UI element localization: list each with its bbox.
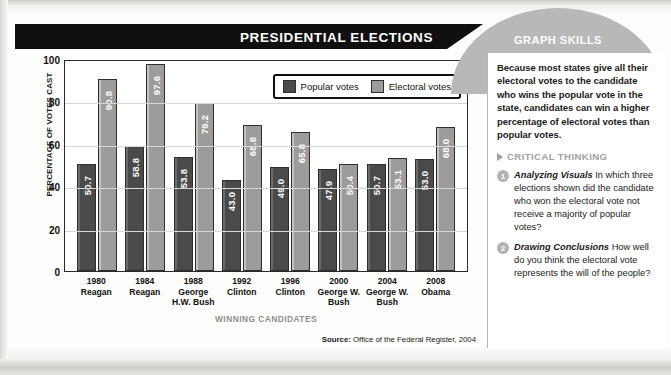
source-text: Office of the Federal Register, 2004 xyxy=(351,335,476,344)
legend-item: Electoral votes xyxy=(371,80,451,93)
x-axis-year: 2004 xyxy=(363,276,412,287)
bar-group: 58.897.6 xyxy=(121,61,169,271)
bar-value-label: 68.0 xyxy=(440,139,451,158)
x-axis-candidate: George H.W. Bush xyxy=(172,287,215,308)
x-axis-year: 1996 xyxy=(266,276,315,287)
x-axis-label: 2004George W. Bush xyxy=(363,276,412,308)
bar-value-label: 53.1 xyxy=(392,170,403,189)
electoral-votes-bar: 79.2 xyxy=(195,103,214,271)
bar-value-label: 53.8 xyxy=(178,169,189,188)
electoral-votes-bar: 50.4 xyxy=(339,164,358,271)
page-edge-bottom xyxy=(0,359,671,375)
x-axis-candidate: George W. Bush xyxy=(318,287,361,308)
bar-value-label: 90.8 xyxy=(102,90,113,109)
x-axis-candidate: Obama xyxy=(421,287,450,297)
page-title: PRESIDENTIAL ELECTIONS xyxy=(240,29,433,44)
electoral-votes-bar: 68.0 xyxy=(436,127,455,271)
page-edge-left xyxy=(0,0,8,375)
electoral-votes-bar: 53.1 xyxy=(388,158,407,271)
sidebar-intro-text: Because most states give all their elect… xyxy=(497,61,655,141)
electoral-votes-bar: 68.8 xyxy=(243,125,262,271)
x-axis-year: 1992 xyxy=(218,276,267,287)
question-text: Analyzing Visuals In which three electio… xyxy=(514,169,655,234)
bar-value-label: 50.7 xyxy=(371,175,382,194)
bar-value-label: 58.8 xyxy=(129,158,140,177)
x-axis-label: 1980Reagan xyxy=(72,276,121,308)
x-axis-year: 1984 xyxy=(121,276,170,287)
x-axis-year: 2008 xyxy=(412,276,461,287)
grid-line xyxy=(65,146,467,147)
bar-value-label: 47.9 xyxy=(322,181,333,200)
chart: PERCENTAGE OF VOTES CAST 100806040200 50… xyxy=(14,52,480,352)
popular-votes-bar: 58.8 xyxy=(125,146,144,271)
y-tick-label: 20 xyxy=(34,224,60,235)
y-tick-label: 40 xyxy=(34,182,60,193)
legend-item: Popular votes xyxy=(283,80,359,93)
electoral-votes-bar: 90.8 xyxy=(98,79,117,271)
question-title: Analyzing Visuals xyxy=(514,170,593,180)
x-axis-candidate: George W. Bush xyxy=(366,287,409,308)
y-tick-label: 100 xyxy=(34,55,60,66)
question-item: 2Drawing Conclusions How well do you thi… xyxy=(497,241,655,280)
title-banner: PRESIDENTIAL ELECTIONS xyxy=(15,24,447,49)
popular-votes-bar: 47.9 xyxy=(318,169,337,271)
legend-swatch-icon xyxy=(283,80,296,93)
legend-swatch-icon xyxy=(371,80,384,93)
bar-group: 43.068.8 xyxy=(218,61,266,271)
triangle-right-icon xyxy=(497,153,503,161)
x-axis-labels: 1980Reagan1984Reagan1988George H.W. Bush… xyxy=(64,276,468,308)
sidebar-body: Because most states give all their elect… xyxy=(487,53,665,348)
question-text: Drawing Conclusions How well do you thin… xyxy=(514,241,655,280)
y-tick-label: 80 xyxy=(34,97,60,108)
x-axis-candidate: Clinton xyxy=(227,287,257,297)
x-axis-candidate: Reagan xyxy=(81,287,112,297)
popular-votes-bar: 50.7 xyxy=(367,164,386,271)
question-number-badge: 1 xyxy=(497,170,509,182)
bar-value-label: 53.0 xyxy=(419,170,430,189)
x-axis-label: 2008Obama xyxy=(412,276,461,308)
bar-value-label: 43.0 xyxy=(226,192,237,211)
y-axis-ticks: 100806040200 xyxy=(34,60,60,272)
grid-line xyxy=(65,103,467,104)
x-axis-year: 2000 xyxy=(315,276,364,287)
popular-votes-bar: 53.8 xyxy=(174,157,193,271)
legend-label: Electoral votes xyxy=(389,81,451,92)
popular-votes-bar: 43.0 xyxy=(222,180,241,271)
graph-skills-sidebar: GRAPH SKILLS Because most states give al… xyxy=(487,8,665,348)
critical-thinking-header: CRITICAL THINKING xyxy=(497,151,655,162)
page-edge-top xyxy=(0,0,671,6)
electoral-votes-bar: 97.6 xyxy=(146,64,165,271)
x-axis-label: 2000George W. Bush xyxy=(315,276,364,308)
question-number-badge: 2 xyxy=(497,242,509,254)
bar-value-label: 79.2 xyxy=(199,115,210,134)
critical-thinking-label: CRITICAL THINKING xyxy=(507,151,607,162)
x-axis-title: WINNING CANDIDATES xyxy=(64,314,468,324)
y-tick-label: 0 xyxy=(34,267,60,278)
bar-group: 53.879.2 xyxy=(170,61,218,271)
x-axis-label: 1996Clinton xyxy=(266,276,315,308)
bar-group: 50.790.8 xyxy=(73,61,121,271)
x-axis-label: 1988George H.W. Bush xyxy=(169,276,218,308)
x-axis-label: 1984Reagan xyxy=(121,276,170,308)
popular-votes-bar: 50.7 xyxy=(77,164,96,271)
y-tick-label: 60 xyxy=(34,139,60,150)
x-axis-candidate: Clinton xyxy=(275,287,305,297)
electoral-votes-bar: 65.8 xyxy=(291,132,310,271)
grid-line xyxy=(65,188,467,189)
grid-line xyxy=(65,231,467,232)
x-axis-year: 1988 xyxy=(169,276,218,287)
popular-votes-bar: 53.0 xyxy=(415,159,434,271)
question-item: 1Analyzing Visuals In which three electi… xyxy=(497,169,655,234)
bar-value-label: 97.6 xyxy=(150,76,161,95)
x-axis-candidate: Reagan xyxy=(129,287,160,297)
bar-value-label: 50.7 xyxy=(81,175,92,194)
source-label: Source: xyxy=(322,335,351,344)
sidebar-title: GRAPH SKILLS xyxy=(451,34,665,46)
question-list: 1Analyzing Visuals In which three electi… xyxy=(497,169,655,280)
bar-value-label: 50.4 xyxy=(343,176,354,195)
graph-skills-page: PRESIDENTIAL ELECTIONS PERCENTAGE OF VOT… xyxy=(0,0,671,375)
chart-legend: Popular votesElectoral votes xyxy=(273,74,461,99)
popular-votes-bar: 49.0 xyxy=(270,167,289,271)
x-axis-year: 1980 xyxy=(72,276,121,287)
question-title: Drawing Conclusions xyxy=(514,242,609,252)
